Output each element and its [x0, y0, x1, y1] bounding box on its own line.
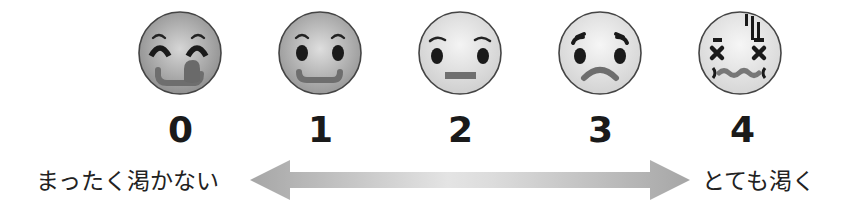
face-level-1 — [277, 10, 363, 96]
right-caption: とても渇く — [702, 166, 815, 196]
face-delighted-tongue-icon — [137, 10, 223, 96]
level-label-0: 0 — [150, 110, 210, 150]
face-level-3 — [557, 10, 643, 96]
face-level-2 — [417, 10, 503, 96]
level-label-3: 3 — [570, 110, 630, 150]
face-level-0 — [137, 10, 223, 96]
level-label-1: 1 — [290, 110, 350, 150]
level-label-2: 2 — [430, 110, 490, 150]
face-neutral-icon — [417, 10, 503, 96]
bidirectional-arrow-icon — [246, 158, 694, 202]
face-level-4 — [697, 10, 783, 96]
face-worried-frown-icon — [557, 10, 643, 96]
left-caption: まったく渇かない — [36, 166, 219, 196]
level-label-4: 4 — [712, 110, 772, 150]
face-dizzy-exhausted-icon — [697, 10, 783, 96]
face-smiling-icon — [277, 10, 363, 96]
